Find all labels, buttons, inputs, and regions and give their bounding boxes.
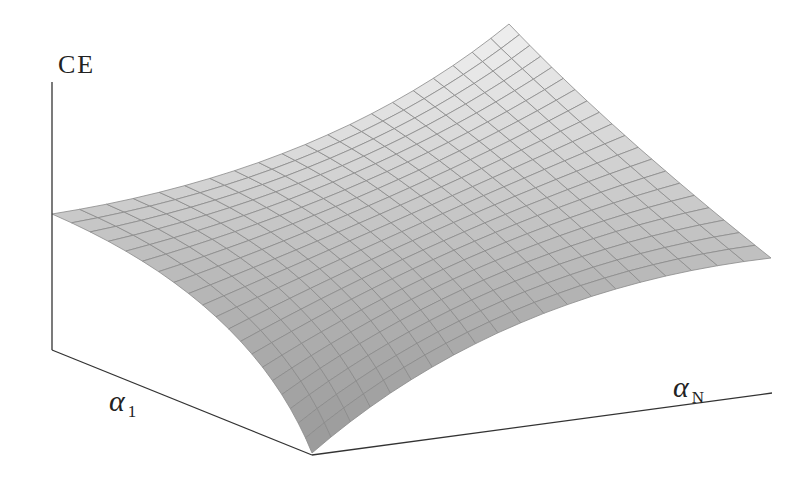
alphaN-subscript: N <box>692 388 704 407</box>
ce-axis-label: CE <box>58 50 95 80</box>
alphaN-axis-label: αN <box>673 370 704 404</box>
alpha1-subscript: 1 <box>128 402 137 421</box>
alpha1-symbol: α <box>109 384 125 417</box>
ce-surface <box>52 24 771 453</box>
alphaN-symbol: α <box>673 370 689 403</box>
alpha1-axis-label: α1 <box>109 384 136 418</box>
